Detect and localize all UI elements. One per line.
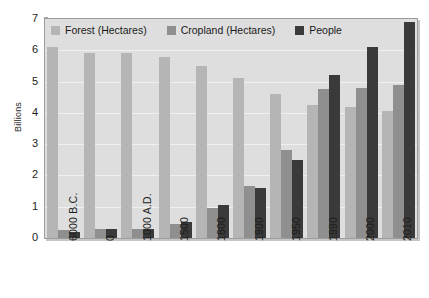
bar-group (194, 19, 231, 238)
x-axis-tick-label: 6000 B.C. (67, 193, 79, 242)
bar[interactable] (159, 57, 170, 238)
legend-swatch-icon (167, 26, 176, 35)
bar-group (157, 19, 194, 238)
x-axis-tick-label: 0 (104, 235, 116, 241)
bar[interactable] (329, 75, 340, 238)
x-axis-tick-label: 1990 (327, 217, 339, 241)
bar-group (380, 19, 417, 238)
chart-legend: Forest (Hectares)Cropland (Hectares)Peop… (51, 21, 362, 39)
bar[interactable] (196, 66, 207, 238)
y-axis-tick-label: 2 (32, 168, 38, 180)
x-axis-tick-label: 1800 (215, 217, 227, 241)
bar[interactable] (84, 53, 95, 238)
bars-layer (45, 19, 417, 238)
legend-item-label: People (309, 24, 342, 36)
legend-swatch-icon (51, 26, 60, 35)
bar[interactable] (270, 94, 281, 238)
bar[interactable] (404, 22, 415, 238)
bar-group (82, 19, 119, 238)
bar[interactable] (233, 78, 244, 238)
legend-item-label: Cropland (Hectares) (181, 24, 276, 36)
legend-item[interactable]: Cropland (Hectares) (167, 24, 276, 36)
legend-item[interactable]: Forest (Hectares) (51, 24, 147, 36)
bar-group (343, 19, 380, 238)
x-axis-tick-label: 1950 (290, 217, 302, 241)
bar[interactable] (345, 107, 356, 238)
x-axis-tick-label: 1000 A.D. (141, 193, 153, 241)
legend-item[interactable]: People (295, 24, 342, 36)
y-axis-tick-label: 5 (32, 75, 38, 87)
y-axis-tick-label: 3 (32, 137, 38, 149)
y-axis-tick-label: 4 (32, 106, 38, 118)
bar[interactable] (382, 111, 393, 238)
y-axis: 01234567 (16, 14, 44, 240)
y-axis-tick-label: 1 (32, 200, 38, 212)
bar[interactable] (393, 85, 404, 238)
legend-item-label: Forest (Hectares) (65, 24, 147, 36)
y-axis-tick-label: 6 (32, 43, 38, 55)
bar-group (305, 19, 342, 238)
y-axis-tick-label: 0 (32, 231, 38, 243)
y-axis-tick-label: 7 (32, 12, 38, 24)
population-forest-cropland-bar-chart: Billions 01234567 Forest (Hectares)Cropl… (0, 0, 429, 298)
x-axis-tick-label: 2000 (364, 217, 376, 241)
x-axis-tick-label: 1500 (178, 217, 190, 241)
x-axis-tick-label: 2010 (401, 217, 413, 241)
x-axis: 6000 B.C.01000 A.D.150018001900195019902… (44, 241, 418, 298)
bar[interactable] (356, 88, 367, 238)
bar[interactable] (121, 53, 132, 238)
bar[interactable] (47, 47, 58, 238)
bar[interactable] (307, 105, 318, 238)
legend-swatch-icon (295, 26, 304, 35)
x-axis-tick-label: 1900 (253, 217, 265, 241)
bar-group (268, 19, 305, 238)
plot-area: Forest (Hectares)Cropland (Hectares)Peop… (44, 18, 418, 239)
bar[interactable] (318, 89, 329, 238)
bar-group (231, 19, 268, 238)
bar[interactable] (367, 47, 378, 238)
